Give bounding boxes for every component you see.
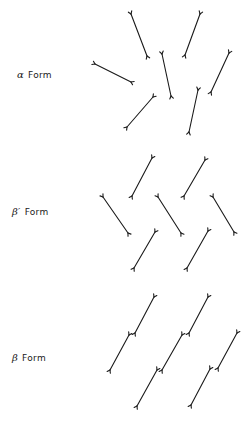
molecule-rod — [188, 366, 213, 408]
beta-form-label: βForm — [12, 352, 46, 363]
molecule-rod — [182, 11, 202, 58]
beta-prime-symbol: β′ — [12, 206, 21, 217]
molecule-rod — [215, 330, 240, 371]
molecule-rod — [155, 194, 184, 236]
molecule-rod — [181, 157, 208, 199]
molecule-rod — [128, 11, 149, 59]
beta-prime-form-text: Form — [25, 207, 49, 217]
alpha-form-text: Form — [28, 70, 52, 80]
molecule-rod — [134, 367, 160, 409]
beta-symbol: β — [12, 352, 18, 363]
beta-prime-form-label: β′Form — [12, 206, 49, 217]
molecule-rod — [132, 294, 157, 336]
alpha-symbol: α — [17, 69, 24, 80]
molecule-rod — [186, 294, 211, 336]
beta-form-text: Form — [22, 353, 46, 363]
molecule-rod — [107, 332, 132, 373]
molecule-rod — [124, 94, 156, 130]
molecule-rod — [187, 87, 201, 135]
molecule-rod — [131, 229, 158, 271]
molecule-rod — [184, 228, 211, 271]
beta-prime-panel — [100, 155, 237, 271]
beta-panel — [107, 294, 240, 409]
molecule-rod — [159, 332, 185, 373]
molecule-rod — [210, 194, 237, 235]
molecule-rod — [129, 155, 155, 199]
alpha-panel — [92, 11, 232, 135]
molecule-rod — [208, 50, 231, 95]
molecule-rod — [92, 61, 134, 85]
molecule-rod — [160, 51, 174, 99]
alpha-form-label: αForm — [17, 69, 52, 80]
molecule-rod — [100, 194, 131, 236]
